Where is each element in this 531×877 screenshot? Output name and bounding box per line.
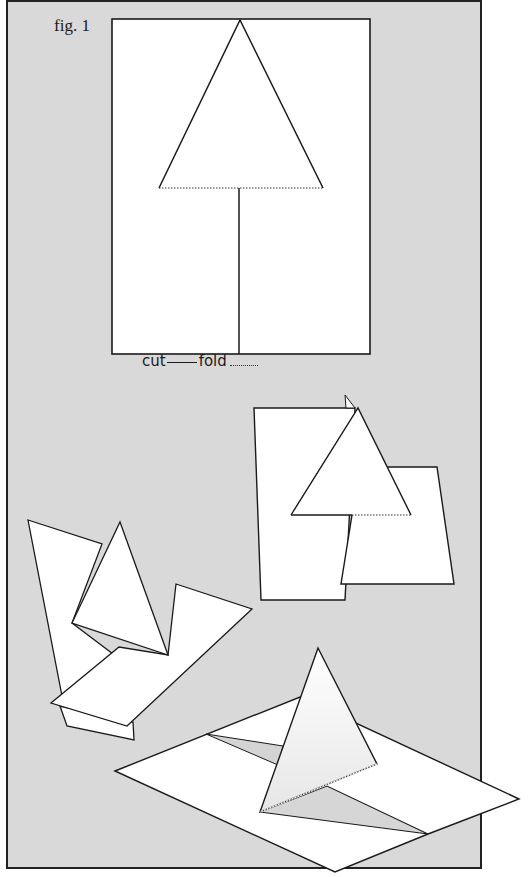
step-flat-template	[112, 19, 370, 354]
legend-cut-label: cut	[142, 352, 166, 370]
paper-sheet	[112, 19, 370, 354]
legend: cut fold	[142, 352, 258, 370]
diagram-svg	[0, 0, 531, 877]
figure-canvas: fig. 1 cut fold	[0, 0, 531, 877]
legend-cut-swatch	[167, 362, 197, 363]
legend-fold-swatch	[230, 365, 258, 366]
figure-label: fig. 1	[54, 16, 90, 36]
legend-fold-label: fold	[199, 352, 227, 370]
